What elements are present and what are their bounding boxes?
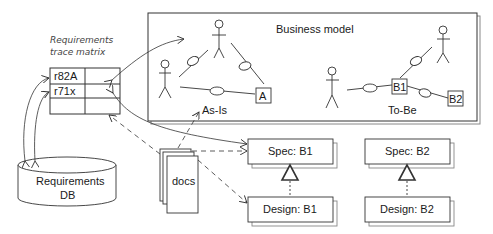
spec-b2-label: Spec: B2 (385, 145, 430, 157)
spec-b1-label: Spec: B1 (268, 145, 313, 157)
design-b2-label: Design: B2 (380, 203, 434, 215)
to-be-box-b2-label: B2 (449, 93, 462, 105)
matrix-title-line2: trace matrix (50, 47, 106, 57)
matrix-title-line1: Requirements (50, 35, 113, 45)
as-is-label: As-Is (202, 104, 228, 116)
to-be-label: To-Be (388, 104, 417, 116)
db-label-line1: Requirements (36, 175, 105, 187)
business-model-frame: Business model (148, 13, 480, 124)
matrix-row-r71x: r71x (54, 85, 76, 97)
traceability-diagram: Business model A As-Is (0, 0, 493, 234)
docs-label: docs (172, 175, 196, 187)
as-is-box-label: A (259, 90, 267, 102)
trace-matrix: Requirements trace matrix r82A r71x (50, 35, 120, 114)
business-model-title: Business model (276, 23, 354, 35)
to-be-box-b1-label: B1 (393, 81, 406, 93)
realization-b1 (282, 165, 298, 197)
design-b1-label: Design: B1 (263, 203, 317, 215)
realization-b2 (399, 165, 415, 197)
matrix-row-r82a: r82A (54, 70, 78, 82)
db-label-line2: DB (60, 189, 75, 201)
